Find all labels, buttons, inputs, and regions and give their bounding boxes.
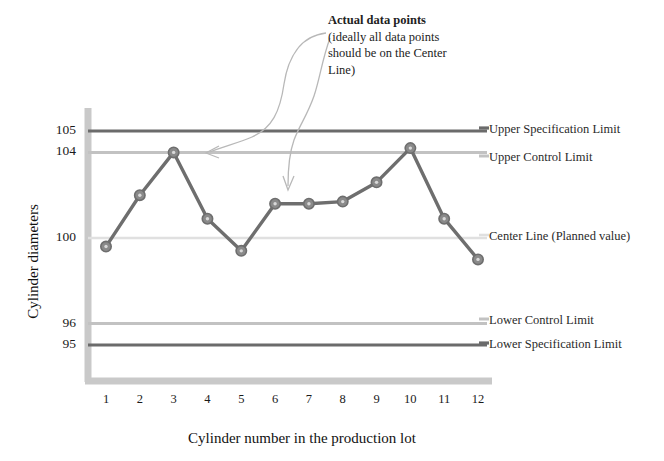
label-lower-control-limit: Lower Control Limit (489, 313, 594, 328)
y-tick-label-104: 104 (42, 143, 76, 159)
x-tick-label-6: 6 (264, 392, 286, 407)
x-tick-label-10: 10 (399, 392, 421, 407)
label-upper-control-limit: Upper Control Limit (489, 150, 592, 165)
x-tick-label-3: 3 (163, 392, 185, 407)
legend-line-swatches (479, 128, 489, 343)
x-tick-label-11: 11 (433, 392, 455, 407)
x-tick-label-12: 12 (467, 392, 489, 407)
annotation-body-line-1: (ideally all data points (328, 29, 496, 46)
x-tick-label-1: 1 (95, 392, 117, 407)
data-point-center (341, 200, 344, 203)
data-point-center (476, 258, 479, 261)
data-point-center (240, 249, 243, 252)
leader-curve-left (210, 33, 326, 152)
data-point-center (307, 202, 310, 205)
data-point-center (138, 194, 141, 197)
annotation-body-line-3: Line) (328, 62, 496, 79)
x-tick-label-8: 8 (332, 392, 354, 407)
reference-lines (88, 131, 487, 345)
label-upper-specification-limit: Upper Specification Limit (489, 122, 620, 137)
data-point-center (375, 181, 378, 184)
leader-curve-right (288, 38, 330, 186)
control-chart: 1051041009695 123456789101112 Upper Spec… (0, 0, 664, 461)
data-point-center (409, 146, 412, 149)
annotation-leaders (206, 33, 330, 190)
y-axis-title: Cylinder diameters (25, 167, 42, 357)
x-axis-title: Cylinder number in the production lot (92, 430, 512, 447)
x-tick-label-5: 5 (230, 392, 252, 407)
x-tick-label-9: 9 (366, 392, 388, 407)
data-point-center (172, 151, 175, 154)
annotation-actual-data-points: Actual data points (ideally all data poi… (328, 12, 496, 78)
y-tick-label-96: 96 (42, 315, 76, 331)
y-tick-label-100: 100 (42, 229, 76, 245)
data-point-center (442, 217, 445, 220)
data-point-center (206, 217, 209, 220)
x-tick-label-7: 7 (298, 392, 320, 407)
data-point-center (273, 202, 276, 205)
y-tick-label-105: 105 (42, 122, 76, 138)
annotation-title: Actual data points (328, 12, 496, 29)
data-point-center (104, 245, 107, 248)
x-tick-label-4: 4 (196, 392, 218, 407)
annotation-body-line-2: should be on the Center (328, 45, 496, 62)
data-series-line (106, 148, 478, 259)
label-center-line: Center Line (Planned value) (489, 229, 630, 244)
y-tick-label-95: 95 (42, 336, 76, 352)
x-tick-label-2: 2 (129, 392, 151, 407)
label-lower-specification-limit: Lower Specification Limit (489, 337, 622, 352)
